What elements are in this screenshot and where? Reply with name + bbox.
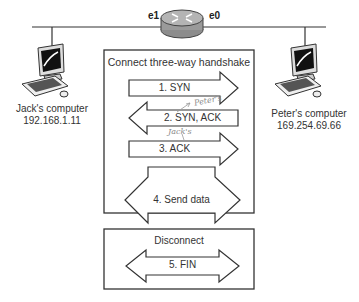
fin-label: 5. FIN — [146, 259, 219, 270]
router-icon — [161, 10, 203, 38]
step-syn-ack-label: 2. SYN, ACK — [147, 112, 238, 123]
jack-computer-name: Jack's computer — [4, 103, 100, 115]
interface-e1-label: e1 — [148, 10, 159, 21]
step-syn-label: 1. SYN — [129, 82, 220, 93]
disconnect-title: Disconnect — [104, 235, 254, 246]
handshake-title: Connect three-way handshake — [104, 56, 254, 68]
computer-icon-peter — [275, 44, 321, 97]
jack-computer-ip: 192.168.1.11 — [4, 115, 100, 127]
annotation-jacks: Jack's — [168, 127, 192, 136]
interface-e0-label: e0 — [209, 10, 220, 21]
send-data-label: 4. Send data — [148, 194, 215, 205]
peter-computer-ip: 169.254.69.66 — [259, 120, 359, 132]
peter-computer-name: Peter's computer — [259, 108, 359, 120]
computer-icon-jack — [22, 44, 68, 97]
step-ack-label: 3. ACK — [129, 143, 220, 154]
